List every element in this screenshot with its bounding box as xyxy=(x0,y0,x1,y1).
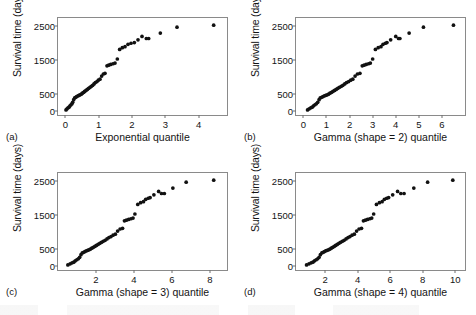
x-tick-mark xyxy=(65,115,66,118)
panel-c: Survival time (days) 0500150025002468 Ga… xyxy=(0,155,238,305)
x-tick-mark xyxy=(133,270,134,273)
x-tick-mark xyxy=(209,270,210,273)
y-tick-mark xyxy=(55,93,58,94)
x-tick-mark xyxy=(418,115,419,118)
x-tick-mark xyxy=(198,115,199,118)
plot-area-b: 0500150025000123456 xyxy=(295,17,466,116)
y-tick-mark xyxy=(293,180,296,181)
panel-a: Survival time (days) 05001500250001234 E… xyxy=(0,0,238,150)
x-tick-mark xyxy=(326,115,327,118)
x-tick-mark xyxy=(422,270,423,273)
x-tick-mark xyxy=(303,115,304,118)
y-axis-label: Survival time (days) xyxy=(249,138,263,238)
scatter-points-b xyxy=(296,18,465,115)
x-axis-label: Gamma (shape = 3) quantile xyxy=(57,286,228,298)
x-tick-mark xyxy=(455,270,456,273)
scan-artifact xyxy=(0,305,476,315)
panel-b: Survival time (days) 0500150025000123456… xyxy=(238,0,476,150)
x-tick-mark xyxy=(349,115,350,118)
panel-label-c: (c) xyxy=(6,286,17,297)
y-tick-mark xyxy=(293,214,296,215)
y-tick-mark xyxy=(55,180,58,181)
y-tick-mark xyxy=(55,59,58,60)
y-tick-mark xyxy=(293,265,296,266)
x-tick-mark xyxy=(441,115,442,118)
x-tick-mark xyxy=(357,270,358,273)
y-tick-mark xyxy=(55,25,58,26)
scatter-points-c xyxy=(58,173,227,270)
plot-area-d: 050015002500246810 xyxy=(295,172,466,271)
panel-d: Survival time (days) 050015002500246810 … xyxy=(238,155,476,305)
x-tick-mark xyxy=(372,115,373,118)
y-tick-mark xyxy=(293,248,296,249)
plot-area-a: 05001500250001234 xyxy=(57,17,228,116)
y-tick-mark xyxy=(293,110,296,111)
x-tick-mark xyxy=(132,115,133,118)
scatter-points-d xyxy=(296,173,465,270)
y-tick-mark xyxy=(293,93,296,94)
y-tick-mark xyxy=(55,110,58,111)
y-axis-label: Survival time (days) xyxy=(11,138,25,238)
x-tick-mark xyxy=(165,115,166,118)
x-tick-mark xyxy=(95,270,96,273)
x-tick-mark xyxy=(171,270,172,273)
y-tick-mark xyxy=(55,265,58,266)
y-tick-mark xyxy=(55,214,58,215)
y-tick-mark xyxy=(293,25,296,26)
qq-plot-figure: Survival time (days) 05001500250001234 E… xyxy=(0,0,476,315)
x-tick-mark xyxy=(325,270,326,273)
x-axis-label: Gamma (shape = 4) quantile xyxy=(295,286,466,298)
x-tick-mark xyxy=(98,115,99,118)
y-axis-label: Survival time (days) xyxy=(249,0,263,83)
x-axis-label: Gamma (shape = 2) quantile xyxy=(295,131,466,143)
panel-label-d: (d) xyxy=(244,286,256,297)
y-tick-mark xyxy=(55,248,58,249)
x-axis-label: Exponential quantile xyxy=(57,131,228,143)
plot-area-c: 0500150025002468 xyxy=(57,172,228,271)
scatter-points-a xyxy=(58,18,227,115)
x-tick-mark xyxy=(395,115,396,118)
y-axis-label: Survival time (days) xyxy=(11,0,25,83)
x-tick-mark xyxy=(390,270,391,273)
y-tick-mark xyxy=(293,59,296,60)
